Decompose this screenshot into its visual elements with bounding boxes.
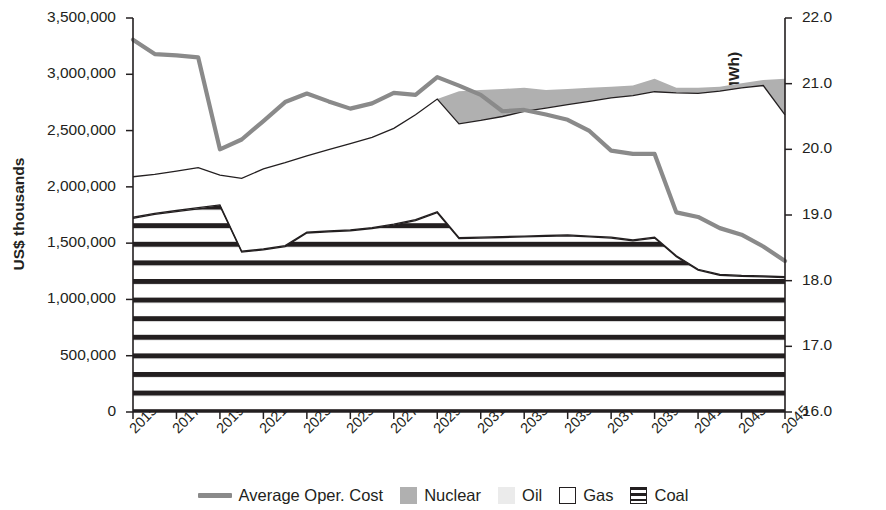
legend-item-nuclear[interactable]: Nuclear (400, 486, 481, 505)
legend-item-label: Nuclear (424, 486, 481, 505)
legend-swatch-gas-icon (559, 487, 576, 504)
chart-plot-area (0, 0, 886, 510)
legend-item-label: Gas (583, 486, 613, 505)
legend-item-average-oper-cost[interactable]: Average Oper. Cost (198, 486, 384, 505)
legend-item-label: Average Oper. Cost (239, 486, 384, 505)
chart-legend: Average Oper. CostNuclearOilGasCoal (0, 481, 886, 510)
legend-item-oil[interactable]: Oil (498, 486, 542, 505)
legend-item-gas[interactable]: Gas (559, 486, 613, 505)
legend-swatch-coal-icon (630, 487, 647, 504)
legend-swatch-oil-icon (498, 487, 515, 504)
legend-item-coal[interactable]: Coal (630, 486, 688, 505)
chart-figure: US$ thousands Average system operational… (0, 0, 886, 510)
legend-item-label: Coal (654, 486, 688, 505)
stacked-areas (133, 79, 785, 412)
legend-item-label: Oil (522, 486, 542, 505)
legend-swatch-nuclear-icon (400, 487, 417, 504)
legend-swatch-line-icon (198, 493, 232, 498)
